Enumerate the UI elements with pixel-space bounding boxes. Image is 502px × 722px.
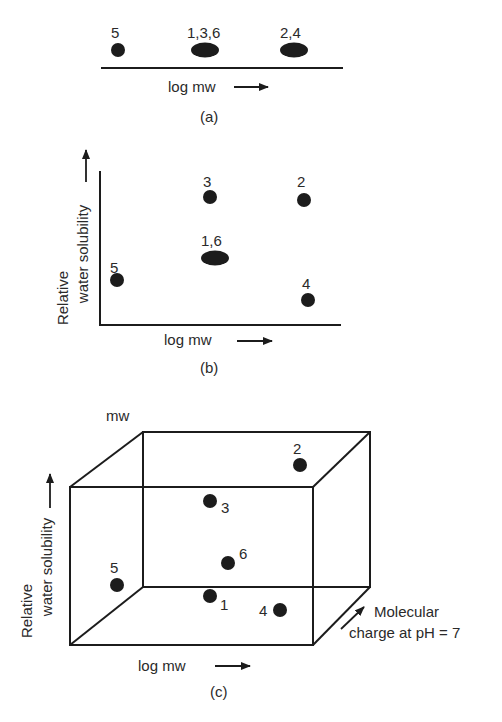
data-point-5 [110,273,124,287]
point-label-3: 3 [221,499,229,516]
data-point-2 [293,458,307,472]
data-point-1-6 [201,251,229,266]
point-label-1: 1 [220,596,228,613]
data-point-4 [273,603,287,617]
y-axis-label-line1: Relative [54,271,71,325]
y-axis-label-line1: Relative [18,584,35,638]
data-point-2-4 [280,43,308,58]
data-point-5 [110,578,124,592]
panel-caption-b: (b) [200,359,218,376]
panel-caption-c: (c) [210,683,228,700]
data-point-3 [203,190,217,204]
panel-caption-a: (a) [200,108,218,125]
cube-edge-bottom-left [70,587,143,645]
cube-edge-top-right [313,432,370,487]
data-point-1 [203,589,217,603]
point-label-5: 5 [111,24,119,41]
point-label-4: 4 [259,602,267,619]
point-label-2: 2 [293,440,301,457]
data-point-2 [297,193,311,207]
point-label-2: 2 [297,173,305,190]
z-axis-label-line2: charge at pH = 7 [349,624,460,641]
separation-diagram: 5 1,3,6 2,4 log mw (a) Relative water so… [0,0,502,722]
z-axis-label-line1: Molecular [374,603,439,620]
x-axis-label: log mw [168,78,216,95]
data-point-5 [111,43,125,57]
point-label-4: 4 [302,275,310,292]
point-label-2-4: 2,4 [280,24,301,41]
top-axis-label-mw: mw [106,407,129,424]
panel-c: mw 2 3 6 5 1 4 Relative water solubility… [18,407,460,700]
y-axis-label-line2: water solubility [74,204,91,304]
y-axis-label-line2: water solubility [38,517,55,617]
x-axis-label: log mw [164,331,212,348]
cube-front-face [70,487,313,645]
point-label-6: 6 [239,545,247,562]
point-label-5: 5 [110,559,118,576]
panel-b: Relative water solubility 5 3 1,6 2 4 lo… [54,150,341,376]
point-label-3: 3 [203,173,211,190]
data-point-6 [221,556,235,570]
cube-back-face [143,432,370,587]
point-label-1-6: 1,6 [201,232,222,249]
cube-edge-top-left [70,432,143,487]
data-point-4 [301,293,315,307]
data-point-3 [203,494,217,508]
point-label-1-3-6: 1,3,6 [187,24,220,41]
x-axis-label: log mw [138,657,186,674]
data-point-1-3-6 [191,43,219,58]
panel-a: 5 1,3,6 2,4 log mw (a) [101,24,343,125]
